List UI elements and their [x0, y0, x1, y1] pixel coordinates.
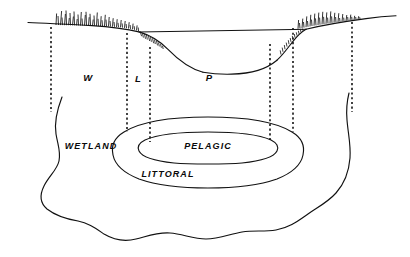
- label-pelagic-name: PELAGIC: [184, 141, 232, 151]
- water-surface-line: [139, 29, 306, 32]
- label-littoral-name: LITTORAL: [141, 169, 194, 179]
- figure-canvas: W L P WETLAND PELAGIC LITTORAL: [0, 0, 410, 257]
- left-bank-hatching: [141, 33, 164, 49]
- lake-zonation-figure: W L P WETLAND PELAGIC LITTORAL: [0, 0, 410, 257]
- zone-name-labels: WETLAND PELAGIC LITTORAL: [65, 141, 232, 179]
- lake-basin-floor: [203, 60, 277, 74]
- zone-code-labels: W L P: [83, 72, 212, 84]
- ground-line-left: [28, 23, 140, 33]
- plan-view-group: [41, 93, 350, 240]
- shoreline-vegetation-left: [56, 11, 139, 32]
- dashed-divider-group: [51, 22, 352, 142]
- wetland-outer-boundary: [41, 93, 350, 240]
- shoreline-vegetation-right: [298, 11, 360, 28]
- label-pelagic-code: P: [206, 72, 213, 83]
- label-littoral-code: L: [135, 73, 141, 84]
- right-bank-hatching: [280, 29, 303, 55]
- label-wetland-code: W: [83, 72, 93, 83]
- right-bank-slope: [277, 29, 306, 60]
- label-wetland-name: WETLAND: [65, 141, 118, 151]
- cross-section-group: [28, 11, 396, 75]
